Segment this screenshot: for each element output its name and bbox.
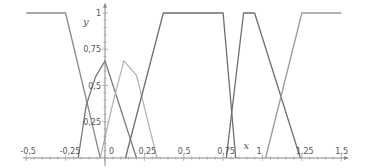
x-tick-label: 0 bbox=[109, 147, 114, 156]
x-tick-label: 1 bbox=[257, 147, 262, 156]
y-tick-label: 0,25 bbox=[83, 118, 101, 127]
curve-triangle-neg bbox=[78, 61, 136, 158]
y-tick-label: 1 bbox=[96, 9, 101, 18]
x-axis-label: x bbox=[244, 140, 250, 151]
x-tick-label: 1,25 bbox=[296, 147, 314, 156]
x-tick-label: 0,25 bbox=[138, 147, 156, 156]
x-tick-label: 0,5 bbox=[178, 147, 191, 156]
x-tick-label: 0,75 bbox=[217, 147, 235, 156]
x-tick-label: -0,5 bbox=[20, 147, 36, 156]
x-tick-labels: -0,5-0,2500,250,50,7511,251,5 bbox=[20, 147, 348, 156]
x-tick-label: -0,25 bbox=[60, 147, 81, 156]
x-tick-label: 1,5 bbox=[335, 147, 348, 156]
membership-chart: -0,5-0,2500,250,50,7511,251,5 0,250,50,7… bbox=[0, 0, 368, 168]
y-tick-label: 0,75 bbox=[83, 45, 101, 54]
y-axis-arrow-icon bbox=[103, 3, 107, 8]
y-tick-label: 0,5 bbox=[88, 82, 101, 91]
curve-trapezoid-right bbox=[226, 13, 300, 158]
curves-group bbox=[26, 13, 341, 158]
x-axis-arrow-icon bbox=[344, 156, 349, 160]
y-axis-label: y bbox=[82, 16, 89, 27]
curve-trapezoid-mid bbox=[126, 13, 236, 158]
